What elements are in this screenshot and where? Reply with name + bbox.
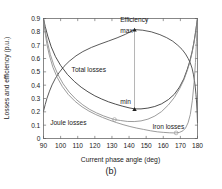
y-tick-label: 0.1 <box>31 122 40 129</box>
total-losses-label: Total losses <box>72 66 107 73</box>
y-tick-label: 0.6 <box>31 55 40 62</box>
x-tick-label: 120 <box>89 142 100 149</box>
y-tick-label: 0.7 <box>31 42 40 49</box>
joule-losses-label: Joule losses <box>50 119 87 126</box>
y-tick-label: 0.4 <box>31 82 40 89</box>
chart-annotations-group: EfficiencymaxTotal lossesminJoule losses… <box>50 16 185 130</box>
iron-losses-label: Iron losses <box>152 123 185 130</box>
y-tick-label: 0.9 <box>31 15 40 22</box>
x-tick-label: 180 <box>192 142 203 149</box>
efficiency-label: Efficiency <box>120 16 149 24</box>
x-tick-label: 140 <box>124 142 135 149</box>
x-tick-label: 90 <box>40 142 48 149</box>
losses-efficiency-chart: 90100110120130140150160170180 00.10.20.3… <box>0 0 222 189</box>
max-label: max <box>120 27 133 34</box>
x-tick-label: 130 <box>106 142 117 149</box>
series-efficiency <box>44 30 198 123</box>
y-tick-label: 0.3 <box>31 95 40 102</box>
figure-caption: (b) <box>0 166 222 176</box>
x-tick-label: 150 <box>141 142 152 149</box>
x-tick-label: 100 <box>55 142 66 149</box>
y-tick-label: 0 <box>37 135 41 142</box>
series-iron-losses <box>44 19 198 133</box>
y-tick-label: 0.8 <box>31 28 40 35</box>
y-axis-title: Losses and efficiency (p.u.) <box>3 37 11 120</box>
data-series-group <box>44 19 198 133</box>
series-joule-losses <box>44 19 198 122</box>
x-tick-label: 170 <box>175 142 186 149</box>
x-tick-label: 160 <box>158 142 169 149</box>
data-markers-group <box>113 28 178 135</box>
x-axis-title: Current phase angle (deg) <box>81 156 160 164</box>
min-label: min <box>120 98 131 105</box>
figure-container: 90100110120130140150160170180 00.10.20.3… <box>0 0 222 189</box>
y-tick-label: 0.5 <box>31 68 40 75</box>
x-tick-label: 110 <box>72 142 83 149</box>
y-tick-label: 0.2 <box>31 108 40 115</box>
